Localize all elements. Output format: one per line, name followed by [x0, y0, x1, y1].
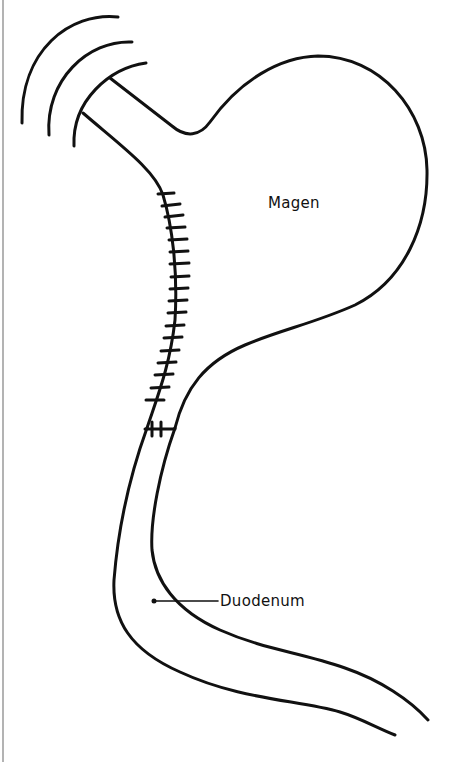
stomach-diagram: [0, 0, 463, 762]
duodenum-outer-wall: [114, 428, 395, 735]
cut-arc-inner: [74, 63, 146, 146]
stomach-outline: [83, 56, 428, 735]
diagram-canvas: Magen Duodenum: [0, 0, 463, 762]
lesser-curvature-staple-line: [83, 113, 176, 428]
staple-ticks: [146, 193, 189, 400]
greater-curvature: [110, 56, 427, 428]
duodenum-leader: [152, 599, 219, 604]
esophagus-cut-arcs: [22, 17, 146, 146]
stomach-label: Magen: [268, 194, 320, 212]
duodenum-label: Duodenum: [220, 592, 305, 610]
